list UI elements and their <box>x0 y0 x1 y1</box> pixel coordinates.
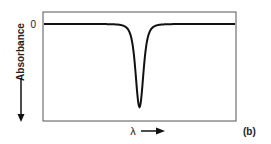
chart: 0 Absorbance λ (b) <box>0 0 271 144</box>
y-tick-label-0: 0 <box>30 19 36 30</box>
panel-label: (b) <box>243 126 256 137</box>
x-axis-arrow-head <box>156 128 165 135</box>
y-axis-label: Absorbance <box>15 23 26 81</box>
y-axis-arrow-head <box>18 114 25 122</box>
absorbance-curve <box>44 24 235 107</box>
x-axis-label: λ <box>130 125 136 137</box>
